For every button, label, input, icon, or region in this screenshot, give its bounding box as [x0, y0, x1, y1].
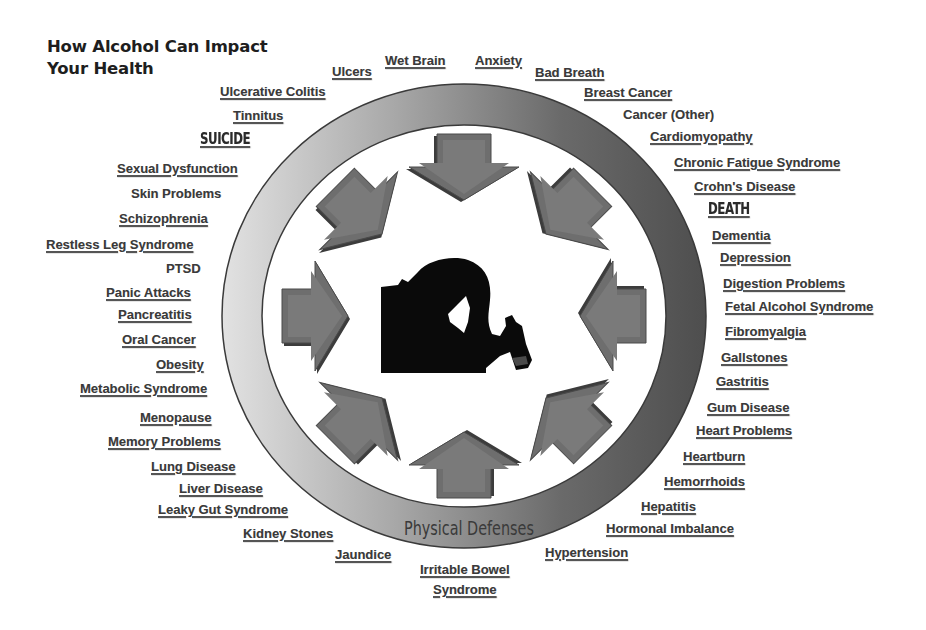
label-kidney-stones: Kidney Stones [243, 526, 333, 541]
label-oral-cancer: Oral Cancer [122, 332, 196, 347]
label-cancer-other: Cancer (Other) [623, 107, 714, 122]
label-bad-breath: Bad Breath [535, 65, 604, 80]
label-hepatitis: Hepatitis [641, 499, 696, 514]
label-heart-problems: Heart Problems [696, 423, 792, 438]
label-anxiety: Anxiety [475, 53, 522, 68]
physical-defenses-label: Physical Defenses [404, 517, 534, 540]
label-suicide: SUICIDE [200, 132, 250, 147]
label-menopause: Menopause [140, 410, 212, 425]
label-crohn-s-disease: Crohn's Disease [694, 179, 795, 194]
label-obesity: Obesity [156, 357, 204, 372]
label-panic-attacks: Panic Attacks [106, 285, 191, 300]
arrow-icon [578, 258, 646, 371]
label-metabolic-syndrome: Metabolic Syndrome [80, 381, 207, 396]
label-leaky-gut-syndrome: Leaky Gut Syndrome [158, 502, 288, 517]
label-gastritis: Gastritis [716, 374, 769, 389]
label-hormonal-imbalance: Hormonal Imbalance [606, 521, 734, 536]
label-ulcerative-colitis: Ulcerative Colitis [220, 84, 326, 99]
label-breast-cancer: Breast Cancer [584, 85, 672, 100]
label-chronic-fatigue-syndrome: Chronic Fatigue Syndrome [674, 155, 840, 170]
label-death: DEATH [708, 202, 750, 217]
label-ulcers: Ulcers [332, 64, 372, 79]
label-liver-disease: Liver Disease [179, 481, 263, 496]
label-digestion-problems: Digestion Problems [723, 276, 845, 291]
label-skin-problems: Skin Problems [131, 186, 221, 201]
label-schizophrenia: Schizophrenia [119, 211, 208, 226]
label-irritable-bowel: Irritable BowelSyndrome [420, 560, 510, 600]
label-dementia: Dementia [712, 228, 771, 243]
label-hemorrhoids: Hemorrhoids [664, 474, 745, 489]
label-depression: Depression [720, 250, 791, 265]
label-tinnitus: Tinnitus [233, 108, 283, 123]
label-cardiomyopathy: Cardiomyopathy [650, 129, 753, 144]
label-hypertension: Hypertension [545, 545, 628, 560]
label-pancreatitis: Pancreatitis [118, 307, 192, 322]
label-line-1: Irritable Bowel [420, 560, 510, 580]
label-fibromyalgia: Fibromyalgia [725, 324, 806, 339]
arrow-icon [409, 430, 522, 498]
label-jaundice: Jaundice [335, 547, 391, 562]
label-fetal-alcohol-syndrome: Fetal Alcohol Syndrome [725, 299, 873, 314]
label-ptsd: PTSD [166, 261, 201, 276]
label-gum-disease: Gum Disease [707, 400, 789, 415]
label-sexual-dysfunction: Sexual Dysfunction [117, 161, 238, 176]
label-wet-brain: Wet Brain [385, 53, 445, 68]
label-restless-leg-syndrome: Restless Leg Syndrome [46, 237, 193, 252]
arrow-icon [282, 261, 350, 374]
person-with-bottle-silhouette-icon [381, 258, 532, 373]
label-memory-problems: Memory Problems [108, 434, 221, 449]
arrow-icon [406, 134, 519, 202]
label-gallstones: Gallstones [721, 350, 787, 365]
label-lung-disease: Lung Disease [151, 459, 236, 474]
label-line-2: Syndrome [420, 580, 510, 600]
label-heartburn: Heartburn [683, 449, 745, 464]
